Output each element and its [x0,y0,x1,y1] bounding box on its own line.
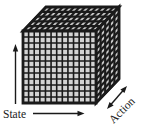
cube [23,7,119,103]
vertical-axis-arrow-icon [13,44,18,104]
action-axis-label: Action [106,95,137,126]
cube-diagram: State Action [0,0,146,137]
state-axis-arrow-icon [33,111,85,116]
state-axis-label: State [3,108,26,120]
cube-front-face [23,31,96,103]
